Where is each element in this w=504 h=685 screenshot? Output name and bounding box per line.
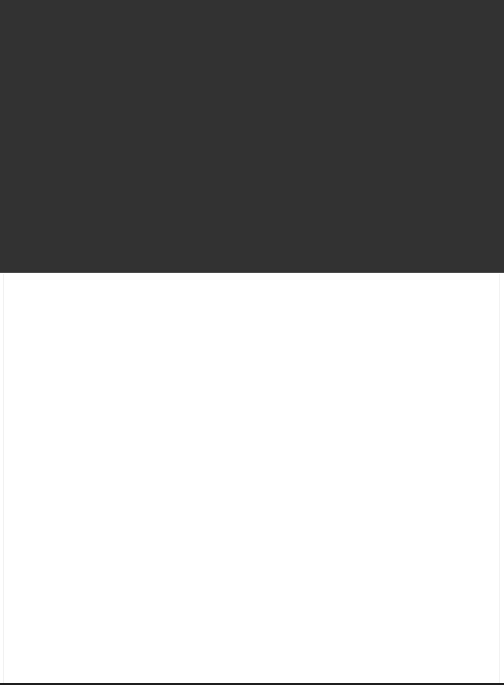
content-pane-body bbox=[4, 274, 499, 682]
dark-header-band bbox=[0, 0, 504, 273]
app-window bbox=[0, 0, 504, 685]
content-right-rule bbox=[499, 274, 500, 683]
